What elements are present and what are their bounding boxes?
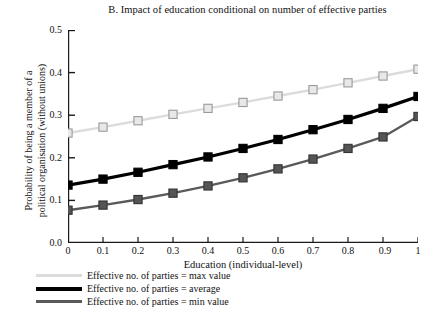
y-tick-label: 0.5 [36, 25, 62, 35]
x-tick-label: 0.5 [228, 246, 258, 256]
data-point-marker [169, 161, 177, 169]
data-point-marker [68, 129, 72, 137]
data-point-marker [414, 92, 418, 100]
data-point-marker [309, 126, 317, 134]
data-point-marker [134, 168, 142, 176]
series-line-2 [68, 116, 418, 210]
data-point-marker [204, 182, 212, 190]
legend-swatch-average-icon [36, 287, 82, 291]
chart-svg [68, 30, 418, 243]
x-tick-label: 0.7 [298, 246, 328, 256]
data-point-marker [309, 155, 317, 163]
data-point-marker [204, 153, 212, 161]
x-tick-label: 1 [403, 246, 433, 256]
legend-item-average: Effective no. of parties = average [36, 282, 356, 295]
legend-label-max: Effective no. of parties = max value [87, 270, 230, 281]
legend-label-average: Effective no. of parties = average [87, 283, 220, 294]
legend-swatch-max-icon [36, 274, 82, 277]
data-point-marker [344, 79, 352, 87]
data-point-marker [379, 133, 387, 141]
series-line-1 [68, 96, 418, 185]
x-tick-label: 0.6 [263, 246, 293, 256]
data-point-marker [344, 144, 352, 152]
y-tick-label: 0.2 [36, 153, 62, 163]
data-point-marker [204, 104, 212, 112]
data-point-marker [68, 206, 72, 214]
data-point-marker [239, 144, 247, 152]
chart-legend: Effective no. of parties = max value Eff… [36, 269, 356, 308]
y-tick-label: 0.1 [36, 195, 62, 205]
y-axis-tick-labels: 0.5 0.4 0.3 0.2 0.1 0.0 [30, 0, 62, 312]
data-point-marker [379, 72, 387, 80]
data-point-marker [274, 135, 282, 143]
data-point-marker [99, 123, 107, 131]
data-point-marker [169, 110, 177, 118]
data-point-marker [169, 189, 177, 197]
data-point-marker [134, 117, 142, 125]
plot-area [68, 30, 418, 243]
axes-layer [68, 30, 418, 243]
x-tick-label: 0.2 [123, 246, 153, 256]
data-point-marker [99, 175, 107, 183]
data-point-marker [68, 181, 72, 189]
y-tick-label: 0.4 [36, 68, 62, 78]
data-point-marker [414, 65, 418, 73]
x-tick-label: 0.8 [333, 246, 363, 256]
data-point-marker [274, 165, 282, 173]
x-tick-label: 0.9 [370, 246, 400, 256]
data-point-marker [379, 104, 387, 112]
series-layer [68, 65, 418, 214]
data-point-marker [309, 86, 317, 94]
data-point-marker [414, 112, 418, 120]
x-tick-label: 0.4 [193, 246, 223, 256]
y-tick-label: 0.3 [36, 110, 62, 120]
legend-swatch-min-icon [36, 300, 82, 303]
legend-item-max: Effective no. of parties = max value [36, 269, 356, 282]
data-point-marker [134, 195, 142, 203]
data-point-marker [274, 92, 282, 100]
legend-item-min: Effective no. of parties = min value [36, 295, 356, 308]
data-point-marker [239, 98, 247, 106]
legend-label-min: Effective no. of parties = min value [87, 296, 229, 307]
chart-title: B. Impact of education conditional on nu… [60, 4, 435, 16]
x-tick-label: 0.1 [88, 246, 118, 256]
data-point-marker [99, 201, 107, 209]
x-tick-label: 0.3 [158, 246, 188, 256]
data-point-marker [239, 174, 247, 182]
x-tick-label: 0 [53, 246, 83, 256]
chart-figure: B. Impact of education conditional on nu… [0, 0, 435, 312]
data-point-marker [344, 115, 352, 123]
